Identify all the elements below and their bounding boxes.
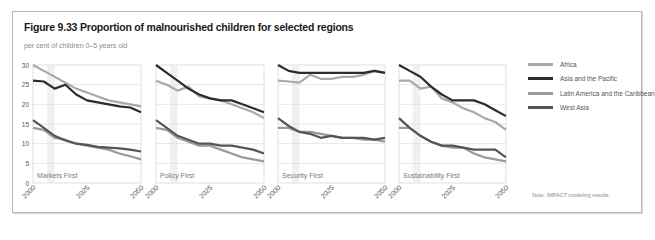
panel-title: Sustainability First <box>403 172 460 180</box>
y-tick-label: 0 <box>25 180 29 187</box>
figure-note: Note: IMPACT modeling results. <box>532 192 610 198</box>
x-tick-label: 2000 <box>266 184 282 200</box>
panel-title: Security First <box>282 172 323 180</box>
legend-item-latin-america: Latin America and the Caribbean <box>528 86 655 101</box>
x-tick-label: 2025 <box>198 184 214 200</box>
legend-swatch-latin-america <box>528 92 553 95</box>
x-tick-label: 2000 <box>387 184 403 200</box>
legend: Africa Asia and the Pacific Latin Americ… <box>528 57 655 115</box>
legend-swatch-asia-pacific <box>528 77 553 80</box>
y-tick-label: 15 <box>22 121 30 128</box>
legend-item-asia-pacific: Asia and the Pacific <box>528 72 655 87</box>
chart-panel-security-first: Security First200020252050 <box>266 65 389 200</box>
panel-title: Policy First <box>160 172 194 180</box>
legend-label: West Asia <box>560 104 589 111</box>
x-tick-label: 2050 <box>129 184 145 200</box>
y-tick-label: 20 <box>22 101 30 108</box>
legend-label: Asia and the Pacific <box>560 75 617 82</box>
legend-swatch-africa <box>528 63 553 66</box>
panel-title: Markets First <box>37 172 78 179</box>
x-tick-label: 2025 <box>75 184 91 200</box>
legend-item-africa: Africa <box>528 57 655 72</box>
chart-panel-sustainability-first: Sustainability First200020252050 <box>387 65 510 200</box>
y-tick-label: 30 <box>22 62 30 69</box>
chart-panel-markets-first: Markets First200020252050 <box>21 65 145 200</box>
y-tick-label: 25 <box>22 81 30 88</box>
chart-panel-policy-first: Policy First200020252050 <box>144 65 268 200</box>
x-tick-label: 2050 <box>373 184 389 200</box>
y-tick-label: 10 <box>22 140 30 147</box>
legend-item-west-asia: West Asia <box>528 101 655 116</box>
x-tick-label: 2025 <box>319 184 335 200</box>
x-tick-label: 2000 <box>144 184 160 200</box>
x-tick-label: 2050 <box>252 184 268 200</box>
x-tick-label: 2025 <box>440 184 456 200</box>
legend-label: Latin America and the Caribbean <box>560 90 655 97</box>
y-tick-label: 5 <box>25 160 29 167</box>
x-tick-label: 2050 <box>494 184 510 200</box>
legend-swatch-west-asia <box>528 106 553 109</box>
legend-label: Africa <box>560 61 577 68</box>
